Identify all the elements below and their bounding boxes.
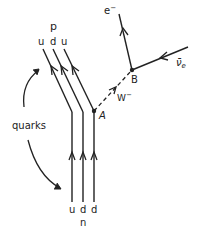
proton-label: p <box>50 20 57 33</box>
curved-arrow-head-icon <box>54 183 61 189</box>
vertex-b-label: B <box>131 74 138 85</box>
neutron-quark-d2: d <box>91 204 97 215</box>
w-boson-symbol: W <box>117 93 126 103</box>
proton-quark-u1: u <box>38 36 44 47</box>
proton-quark-d: d <box>50 36 56 47</box>
proton-quark-u2: u <box>61 36 67 47</box>
neutron-quark-d1: d <box>80 204 86 215</box>
electron-charge: − <box>110 4 116 12</box>
quarks-arrow-up <box>24 70 39 107</box>
neutron-label: n <box>80 217 86 228</box>
electron-line <box>119 14 132 70</box>
beta-decay-diagram: p u d u u d d n quarks A B W− e− ν̄e <box>0 0 197 234</box>
antineutrino-label: ν̄e <box>176 57 186 70</box>
neutron-quark-lines <box>43 49 94 202</box>
vertex-a-label: A <box>98 110 106 121</box>
neutron-quark-u: u <box>69 204 75 215</box>
quarks-label: quarks <box>12 120 46 131</box>
w-boson-label: W− <box>117 91 132 103</box>
w-boson-charge: − <box>126 91 132 99</box>
quarks-arrow-down <box>28 140 60 188</box>
antineutrino-flavor: e <box>182 62 186 70</box>
electron-label: e− <box>104 4 116 16</box>
